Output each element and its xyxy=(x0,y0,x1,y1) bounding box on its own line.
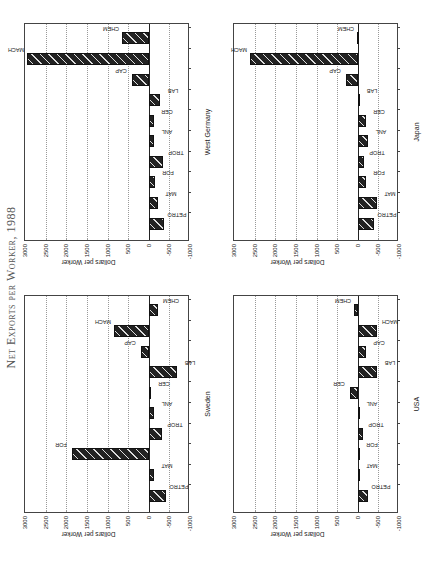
x-tick xyxy=(188,464,191,465)
bar-petro xyxy=(149,490,166,502)
x-tick xyxy=(397,109,400,110)
bar-label: TROP xyxy=(362,150,392,156)
plot-area: 300025002000150010005000-500-1000Dollars… xyxy=(24,23,189,241)
bar-label: MAT xyxy=(357,463,387,469)
y-tick-label: -1000 xyxy=(396,516,402,534)
x-tick xyxy=(188,192,191,193)
bar-label: TROP xyxy=(161,150,191,156)
y-tick-label: -1000 xyxy=(187,516,193,534)
bar-mat xyxy=(358,469,360,481)
gridline xyxy=(337,296,338,512)
y-tick-label: 0 xyxy=(146,516,152,534)
bar-label: LAB xyxy=(357,88,387,94)
gridline xyxy=(317,296,318,512)
bar-petro xyxy=(149,218,164,230)
y-tick-label: 500 xyxy=(125,244,131,262)
bar-petro xyxy=(358,490,368,502)
x-tick xyxy=(188,68,191,69)
x-tick xyxy=(188,48,191,49)
bar-label: MAT xyxy=(375,191,405,197)
x-tick xyxy=(188,171,191,172)
bar-label: PETRO xyxy=(372,212,402,218)
x-tick xyxy=(397,299,400,300)
y-tick-label: 2500 xyxy=(252,516,258,534)
x-tick xyxy=(397,340,400,341)
bar-label: MACH xyxy=(88,319,118,325)
bar-label: TROP xyxy=(361,422,391,428)
y-axis-label: Dollars per Worker xyxy=(59,531,119,538)
gridline xyxy=(296,296,297,512)
bar-label: PETRO xyxy=(162,212,192,218)
y-tick-label: -500 xyxy=(166,516,172,534)
x-tick xyxy=(188,443,191,444)
bar-anl xyxy=(149,407,154,419)
bar-label: LAB xyxy=(175,360,205,366)
gridline xyxy=(275,296,276,512)
y-tick-label: 3000 xyxy=(22,244,28,262)
country-label: USA xyxy=(413,295,420,513)
bar-cer xyxy=(358,115,366,127)
y-tick-label: 500 xyxy=(334,244,340,262)
bar-label: CER xyxy=(324,381,354,387)
bar-cap xyxy=(346,74,358,86)
bar-anl xyxy=(149,135,154,147)
y-tick-label: 2500 xyxy=(43,244,49,262)
y-axis-label: Dollars per Worker xyxy=(268,531,328,538)
x-tick xyxy=(188,27,191,28)
figure-title: Net Exports per Worker, 1988 xyxy=(4,0,19,575)
x-tick xyxy=(397,48,400,49)
y-axis-label: Dollars per Worker xyxy=(268,259,328,266)
bar-petro xyxy=(358,218,375,230)
chart-sweden: 300025002000150010005000-500-1000Dollars… xyxy=(24,285,224,535)
bar-mat xyxy=(149,469,154,481)
bar-label: CHEM xyxy=(328,298,358,304)
bar-lab xyxy=(358,366,377,378)
bar-mach xyxy=(250,53,358,65)
bar-mach xyxy=(358,325,377,337)
bar-mach xyxy=(114,325,149,337)
bar-anl xyxy=(358,135,369,147)
bar-cer xyxy=(149,115,154,127)
plot-area: 300025002000150010005000-500-1000Dollars… xyxy=(233,23,398,241)
bar-chem xyxy=(354,304,357,316)
bar-chem xyxy=(357,32,359,44)
x-tick xyxy=(188,109,191,110)
x-tick xyxy=(397,443,400,444)
gridline xyxy=(255,296,256,512)
x-tick xyxy=(397,89,400,90)
y-tick-label: 0 xyxy=(355,244,361,262)
bar-label: LAB xyxy=(375,360,405,366)
y-tick-label: 500 xyxy=(125,516,131,534)
gridline xyxy=(46,296,47,512)
bar-label: ANL xyxy=(152,129,182,135)
gridline xyxy=(66,296,67,512)
bar-label: ANL xyxy=(357,401,387,407)
bar-label: FOR xyxy=(153,170,183,176)
bar-label: FOR xyxy=(364,170,394,176)
x-tick xyxy=(188,299,191,300)
bar-for xyxy=(358,448,360,460)
bar-for xyxy=(149,176,155,188)
bar-trop xyxy=(149,156,163,168)
gridline xyxy=(87,296,88,512)
chart-west-germany: 300025002000150010005000-500-1000Dollars… xyxy=(24,13,224,263)
bar-label: CAP xyxy=(115,340,145,346)
y-tick-label: 3000 xyxy=(231,516,237,534)
x-tick xyxy=(397,484,400,485)
y-tick-label: 0 xyxy=(146,244,152,262)
bar-trop xyxy=(149,428,162,440)
x-tick xyxy=(397,68,400,69)
y-tick-label: 3000 xyxy=(22,516,28,534)
bar-chem xyxy=(149,304,158,316)
bar-for xyxy=(358,176,366,188)
bar-label: ANL xyxy=(152,401,182,407)
x-tick xyxy=(188,381,191,382)
bar-label: FOR xyxy=(357,442,387,448)
y-tick-label: 3000 xyxy=(231,244,237,262)
chart-japan: 300025002000150010005000-500-1000Dollars… xyxy=(233,13,426,263)
bar-label: CER xyxy=(152,109,182,115)
bar-label: CAP xyxy=(106,68,136,74)
bar-label: CHEM xyxy=(331,26,361,32)
x-tick xyxy=(188,320,191,321)
